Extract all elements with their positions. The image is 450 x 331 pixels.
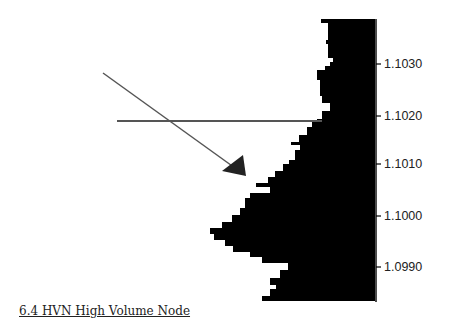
axis-ticks [376,64,381,267]
volume-profile-chart: 1.1030 1.1020 1.1010 1.1000 1.0990 [0,0,450,331]
tick-label: 1.1010 [384,157,422,171]
tick-label: 1.1030 [384,57,422,71]
figure-caption: 6.4 HVN High Volume Node [19,304,190,318]
volume-profile [210,19,375,301]
tick-label: 1.1020 [384,109,422,123]
tick-label: 1.0990 [384,260,422,274]
axis-tick-labels: 1.1030 1.1020 1.1010 1.1000 1.0990 [384,57,422,274]
tick-label: 1.1000 [384,209,422,223]
arrow-head-icon [222,155,246,176]
